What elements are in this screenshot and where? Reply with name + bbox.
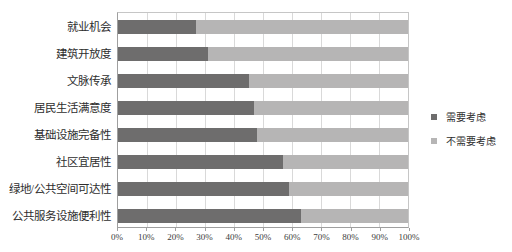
x-tick-mark: [117, 228, 118, 231]
legend-swatch-needed-icon: [431, 114, 437, 120]
x-axis-tick-label: 10%: [138, 232, 155, 242]
stacked-bar: [118, 47, 408, 61]
bar-segment-not-needed: [196, 20, 408, 34]
category-label: 建筑开放度: [0, 39, 111, 66]
bar-row: [118, 175, 408, 202]
x-axis-tick-label: 60%: [284, 232, 301, 242]
bar-row: [118, 67, 408, 94]
category-label: 基础设施完备性: [0, 120, 111, 147]
bar-segment-needed: [118, 182, 289, 196]
bar-segment-needed: [118, 209, 301, 223]
stacked-bar: [118, 20, 408, 34]
stacked-bar: [118, 128, 408, 142]
category-label: 绿地/公共空间可达性: [0, 174, 111, 201]
category-label: 居民生活满意度: [0, 93, 111, 120]
bar-segment-not-needed: [254, 101, 408, 115]
category-label: 社区宜居性: [0, 147, 111, 174]
legend-item-needed: 需要考虑: [431, 109, 496, 124]
x-tick-mark: [205, 228, 206, 231]
legend-swatch-not-needed-icon: [431, 138, 437, 144]
x-axis-tick-label: 80%: [342, 232, 359, 242]
bar-row: [118, 202, 408, 229]
bar-segment-needed: [118, 128, 257, 142]
x-tick-mark: [234, 228, 235, 231]
x-axis-tick-label: 40%: [226, 232, 243, 242]
x-tick-mark: [351, 228, 352, 231]
x-tick-mark: [409, 228, 410, 231]
x-axis-tick-label: 70%: [313, 232, 330, 242]
x-axis-tick-label: 30%: [196, 232, 213, 242]
bar-segment-not-needed: [249, 74, 409, 88]
plot-area: [117, 12, 409, 228]
stacked-bar: [118, 209, 408, 223]
bar-segment-not-needed: [289, 182, 408, 196]
x-tick-mark: [263, 228, 264, 231]
bar-segment-not-needed: [257, 128, 408, 142]
bar-row: [118, 40, 408, 67]
x-axis-tick-label: 20%: [167, 232, 184, 242]
y-axis-category-labels: 就业机会建筑开放度文脉传承居民生活满意度基础设施完备性社区宜居性绿地/公共空间可…: [0, 12, 111, 228]
x-tick-mark: [321, 228, 322, 231]
stacked-bar-chart: 就业机会建筑开放度文脉传承居民生活满意度基础设施完备性社区宜居性绿地/公共空间可…: [0, 0, 512, 252]
stacked-bar: [118, 155, 408, 169]
legend-label-needed: 需要考虑: [446, 109, 486, 124]
x-axis-tick-label: 90%: [372, 232, 389, 242]
legend: 需要考虑 不需要考虑: [431, 109, 496, 148]
category-label: 就业机会: [0, 12, 111, 39]
x-axis-tick-label: 50%: [255, 232, 272, 242]
bar-segment-not-needed: [301, 209, 408, 223]
bar-segment-not-needed: [208, 47, 408, 61]
x-axis: 0%10%20%30%40%50%60%70%80%90%100%: [117, 228, 409, 248]
x-axis-tick-label: 0%: [111, 232, 123, 242]
bar-segment-needed: [118, 101, 254, 115]
x-tick-mark: [146, 228, 147, 231]
bar-row: [118, 121, 408, 148]
bar-segment-not-needed: [283, 155, 408, 169]
category-label: 公共服务设施便利性: [0, 201, 111, 228]
legend-item-not-needed: 不需要考虑: [431, 133, 496, 148]
x-axis-tick-label: 100%: [399, 232, 420, 242]
x-tick-mark: [292, 228, 293, 231]
stacked-bar: [118, 74, 408, 88]
stacked-bar: [118, 182, 408, 196]
bar-segment-needed: [118, 155, 283, 169]
bar-row: [118, 148, 408, 175]
x-tick-mark: [380, 228, 381, 231]
bar-segment-needed: [118, 47, 208, 61]
category-label: 文脉传承: [0, 66, 111, 93]
bar-row: [118, 13, 408, 40]
legend-label-not-needed: 不需要考虑: [446, 133, 496, 148]
x-tick-mark: [175, 228, 176, 231]
bar-segment-needed: [118, 20, 196, 34]
bar-row: [118, 94, 408, 121]
bar-segment-needed: [118, 74, 249, 88]
stacked-bar: [118, 101, 408, 115]
